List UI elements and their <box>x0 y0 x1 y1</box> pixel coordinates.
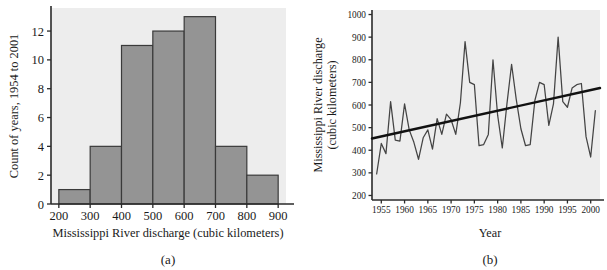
y-tick-label: 500 <box>352 123 366 133</box>
x-tick-label: 2000 <box>581 205 600 215</box>
panel-b-timeseries: 2003004005006007008009001000 19551960196… <box>300 0 607 270</box>
x-tick-label: 1960 <box>395 205 414 215</box>
panel-a-caption: (a) <box>161 252 175 267</box>
x-tick-label: 300 <box>81 209 100 223</box>
y-tick-label: 200 <box>352 191 366 201</box>
x-axis-tick-labels: 200300400500600700800900 <box>49 209 287 223</box>
x-tick-label: 1955 <box>372 205 391 215</box>
x-tick-label: 500 <box>143 209 162 223</box>
y-tick-label: 12 <box>32 25 45 39</box>
y-tick-label: 700 <box>352 78 366 88</box>
y-tick-label: 800 <box>352 55 366 65</box>
y-tick-label: 2 <box>38 169 44 183</box>
x-tick-label: 1980 <box>488 205 507 215</box>
x-tick-label: 1985 <box>512 205 531 215</box>
y-tick-label: 600 <box>352 101 366 111</box>
x-tick-label: 600 <box>175 209 194 223</box>
histogram-bar <box>184 17 215 204</box>
y-tick-label: 6 <box>38 111 44 125</box>
x-tick-label: 1975 <box>465 205 484 215</box>
histogram-bar <box>90 146 121 204</box>
y-tick-label: 0 <box>38 198 44 212</box>
panel-b-caption: (b) <box>482 252 497 267</box>
histogram-bar <box>247 175 278 204</box>
y-axis-title-line1: Mississippi River discharge <box>311 37 325 172</box>
histogram-bar <box>153 31 184 204</box>
y-axis-title: Count of years, 1954 to 2001 <box>7 34 21 179</box>
y-tick-label: 900 <box>352 33 366 43</box>
x-axis-tick-labels: 1955196019651970197519801985199019952000 <box>372 205 600 215</box>
y-tick-label: 300 <box>352 168 366 178</box>
panel-a-histogram: 024681012 200300400500600700800900 Missi… <box>0 0 307 270</box>
x-tick-label: 1965 <box>419 205 438 215</box>
x-axis-title: Year <box>479 226 501 240</box>
x-tick-label: 800 <box>237 209 256 223</box>
y-tick-label: 8 <box>38 82 44 96</box>
x-tick-label: 1995 <box>558 205 577 215</box>
y-axis-title-line2: (cubic kilometers) <box>325 60 339 149</box>
y-axis-tick-labels: 024681012 <box>32 25 45 212</box>
y-axis-tick-labels: 2003004005006007008009001000 <box>347 10 366 201</box>
x-tick-label: 1970 <box>442 205 461 215</box>
y-tick-label: 1000 <box>347 10 366 20</box>
x-axis-title: Mississippi River discharge (cubic kilom… <box>52 226 283 240</box>
x-tick-label: 200 <box>49 209 68 223</box>
histogram-svg: 024681012 200300400500600700800900 Missi… <box>0 0 307 270</box>
x-tick-label: 400 <box>112 209 131 223</box>
histogram-bar <box>122 45 153 204</box>
y-tick-label: 10 <box>32 53 45 67</box>
histogram-bar <box>216 146 247 204</box>
figure-two-panel: 024681012 200300400500600700800900 Missi… <box>0 0 607 270</box>
y-tick-label: 4 <box>38 140 45 154</box>
x-tick-label: 700 <box>206 209 225 223</box>
y-tick-label: 400 <box>352 146 366 156</box>
x-tick-label: 1990 <box>535 205 554 215</box>
timeseries-svg: 2003004005006007008009001000 19551960196… <box>300 0 607 270</box>
histogram-bar <box>59 190 90 204</box>
x-tick-label: 900 <box>269 209 288 223</box>
